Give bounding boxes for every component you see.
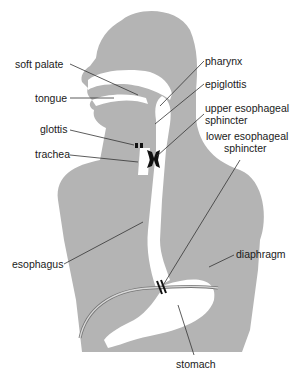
label-upper-sphincter-line1: upper esophageal — [205, 102, 289, 114]
digestive-anatomy-diagram: soft palate tongue glottis trachea esoph… — [0, 0, 307, 377]
label-epiglottis: epiglottis — [205, 78, 246, 90]
label-upper-sphincter-line2: sphincter — [205, 114, 248, 126]
label-esophagus: esophagus — [12, 258, 63, 270]
label-soft-palate: soft palate — [15, 58, 64, 70]
label-glottis: glottis — [40, 123, 67, 135]
label-lower-sphincter-line2: sphincter — [224, 142, 267, 154]
label-pharynx: pharynx — [205, 55, 243, 67]
label-tongue: tongue — [35, 92, 67, 104]
label-lower-sphincter-line1: lower esophageal — [206, 130, 288, 142]
label-stomach: stomach — [176, 358, 216, 370]
label-trachea: trachea — [35, 148, 70, 160]
label-diaphragm: diaphragm — [236, 248, 286, 260]
